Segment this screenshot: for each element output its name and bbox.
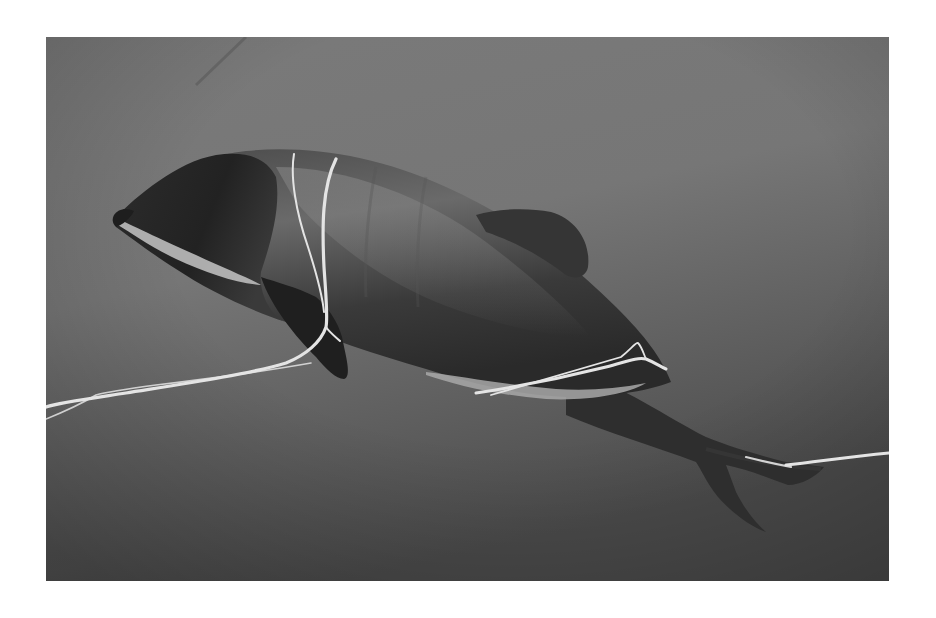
photo: Black-and-white underwater photograph of… [46,37,889,581]
dolphin-scene [46,37,889,581]
